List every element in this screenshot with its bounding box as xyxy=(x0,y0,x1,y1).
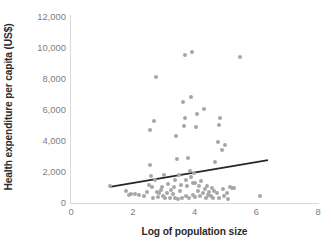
data-point xyxy=(194,125,198,129)
x-axis-line xyxy=(70,203,319,204)
x-tick-label: 0 xyxy=(56,206,86,218)
plot-area xyxy=(71,17,318,203)
data-point xyxy=(225,191,229,195)
data-point xyxy=(148,163,152,167)
data-point xyxy=(153,178,157,182)
data-point xyxy=(199,179,203,183)
data-point xyxy=(154,75,158,79)
x-tick-label: 6 xyxy=(241,206,271,218)
data-point xyxy=(145,190,149,194)
x-axis-title: Log of population size xyxy=(71,226,318,237)
data-point xyxy=(165,191,169,195)
y-tick-label: 8,000 xyxy=(12,74,66,84)
data-point xyxy=(185,184,189,188)
x-tick-label: 2 xyxy=(118,206,148,218)
x-tick-label: 8 xyxy=(303,206,331,218)
data-point xyxy=(238,55,242,59)
y-tick-label: 2,000 xyxy=(12,167,66,177)
scatter-chart: Health expenditure per capita (US$) 02,0… xyxy=(0,0,331,250)
y-tick-label: 4,000 xyxy=(12,136,66,146)
data-point xyxy=(182,124,186,128)
y-tick-label: 12,000 xyxy=(12,12,66,22)
data-point xyxy=(124,189,128,193)
data-point xyxy=(152,119,156,123)
data-point xyxy=(142,194,146,198)
data-point xyxy=(216,140,220,144)
data-point xyxy=(183,116,187,120)
data-point xyxy=(151,196,155,200)
data-point xyxy=(149,174,153,178)
data-point xyxy=(193,195,197,199)
x-tick-label: 4 xyxy=(180,206,210,218)
data-point xyxy=(201,191,205,195)
data-point xyxy=(258,194,262,198)
data-point xyxy=(108,184,112,188)
y-tick-label: 10,000 xyxy=(12,43,66,53)
data-point xyxy=(215,191,219,195)
data-point xyxy=(202,107,206,111)
data-point xyxy=(232,186,236,190)
data-point xyxy=(226,197,230,201)
data-point xyxy=(172,185,176,189)
y-tick-label: 6,000 xyxy=(12,105,66,115)
data-point xyxy=(160,185,164,189)
data-point xyxy=(220,148,224,152)
data-point xyxy=(217,123,221,127)
data-point xyxy=(184,178,188,182)
